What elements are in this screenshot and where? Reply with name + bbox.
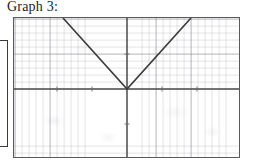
page-title: Graph 3: <box>7 0 58 15</box>
worksheet-graph-figure: Graph 3: <box>0 0 253 166</box>
graph-plot-area <box>13 17 240 158</box>
plot-svg <box>14 18 240 158</box>
adjacent-cut-off-box <box>0 40 8 147</box>
